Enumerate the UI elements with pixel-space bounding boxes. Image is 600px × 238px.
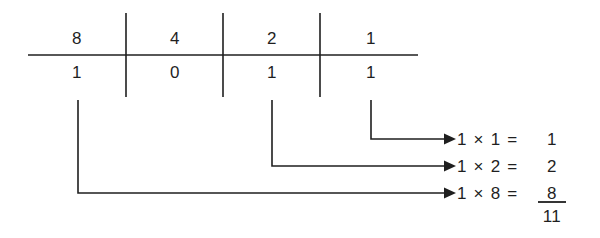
- equation-1-product: 1: [538, 131, 566, 148]
- connector-column-2: [272, 100, 446, 166]
- connector-column-1: [371, 100, 446, 139]
- binary-conversion-figure: 8 4 2 1 1 0 1 1 1 × 1 = 1 1 × 2 = 2 1 × …: [0, 0, 600, 238]
- equation-3-product: 8: [538, 185, 566, 202]
- equation-2-expression: 1 × 2 =: [457, 158, 518, 175]
- binary-digit-cell-2: 0: [155, 64, 195, 81]
- arrowhead-column-2: [444, 161, 456, 172]
- arrowhead-column-8: [444, 188, 456, 199]
- binary-digit-cell-3: 1: [252, 64, 292, 81]
- place-value-cell-8: 8: [57, 30, 97, 47]
- binary-digit-cell-1: 1: [57, 64, 97, 81]
- equation-3-expression: 1 × 8 =: [457, 185, 518, 202]
- binary-digit-cell-4: 1: [351, 64, 391, 81]
- place-value-cell-2: 2: [252, 30, 292, 47]
- equation-2-product: 2: [538, 158, 566, 175]
- connector-column-8: [78, 100, 446, 193]
- arrowhead-column-1: [444, 134, 456, 145]
- total-sum: 11: [535, 208, 569, 225]
- place-value-cell-4: 4: [155, 30, 195, 47]
- place-value-cell-1: 1: [351, 30, 391, 47]
- equation-1-expression: 1 × 1 =: [457, 131, 518, 148]
